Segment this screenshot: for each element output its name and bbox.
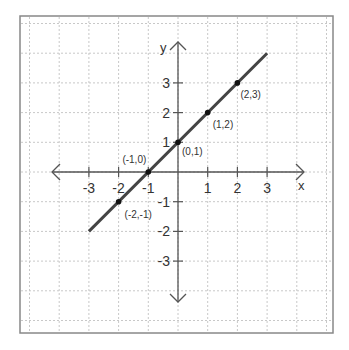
- point-label: (-2,-1): [125, 209, 152, 220]
- y-tick-label: 3: [162, 75, 170, 91]
- plot-border: [20, 16, 333, 333]
- x-tick-label: 2: [234, 180, 242, 196]
- data-point: [205, 110, 211, 116]
- y-tick-label: 2: [162, 105, 170, 121]
- y-tick-label: -1: [158, 194, 171, 210]
- y-tick-label: 1: [162, 134, 170, 150]
- y-axis-label: y: [160, 40, 167, 55]
- x-axis-label: x: [298, 178, 305, 193]
- x-tick-label: 3: [263, 180, 271, 196]
- data-point: [116, 199, 122, 205]
- data-point: [175, 140, 181, 146]
- x-tick-label: 1: [204, 180, 212, 196]
- data-point: [146, 169, 152, 175]
- point-label: (2,3): [240, 89, 261, 100]
- y-tick-label: -2: [158, 223, 171, 239]
- y-tick-label: -3: [158, 253, 171, 269]
- x-tick-label: -1: [142, 180, 155, 196]
- coordinate-plane-chart: -3-2-1123321-1-2-3 (-2,-1)(-1,0)(0,1)(1,…: [0, 0, 349, 350]
- x-tick-label: -2: [112, 180, 125, 196]
- point-label: (-1,0): [122, 154, 146, 165]
- data-point: [235, 80, 241, 86]
- x-tick-label: -3: [83, 180, 96, 196]
- point-label: (0,1): [182, 146, 203, 157]
- point-label: (1,2): [213, 119, 234, 130]
